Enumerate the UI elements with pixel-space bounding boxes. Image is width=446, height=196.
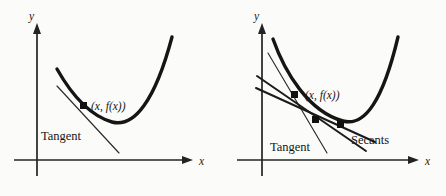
point-label-left: (x, f(x))	[91, 100, 126, 113]
x-axis-arrow-left	[182, 156, 193, 164]
left-diagram-svg: y x (x, f(x)) Tangent	[0, 0, 223, 196]
x-axis-arrow-right	[408, 156, 419, 164]
panel-tangent-and-secants: y x (x, f(x)) Tangent Secants	[223, 0, 446, 196]
secant-point-marker-2	[337, 121, 344, 128]
tangent-annotation-right: Tangent	[270, 140, 311, 154]
function-curve-right	[273, 37, 398, 122]
y-axis-label-right: y	[253, 10, 260, 23]
tangent-annotation-left: Tangent	[41, 129, 82, 143]
y-axis-arrow-left	[33, 23, 41, 34]
x-axis-label-left: x	[198, 155, 205, 167]
secants-annotation-right: Secants	[351, 133, 389, 147]
y-axis-arrow-right	[258, 23, 266, 34]
tangent-point-marker-left	[80, 102, 87, 109]
y-axis-label-left: y	[28, 10, 35, 23]
tangent-point-marker-right	[291, 91, 298, 98]
panel-tangent-only: y x (x, f(x)) Tangent	[0, 0, 223, 196]
right-diagram-svg: y x (x, f(x)) Tangent Secants	[223, 0, 446, 196]
x-axis-label-right: x	[424, 155, 431, 167]
secant-point-marker-1	[312, 116, 319, 123]
point-label-right: (x, f(x))	[305, 89, 340, 102]
figure-root: y x (x, f(x)) Tangent y	[0, 0, 446, 196]
